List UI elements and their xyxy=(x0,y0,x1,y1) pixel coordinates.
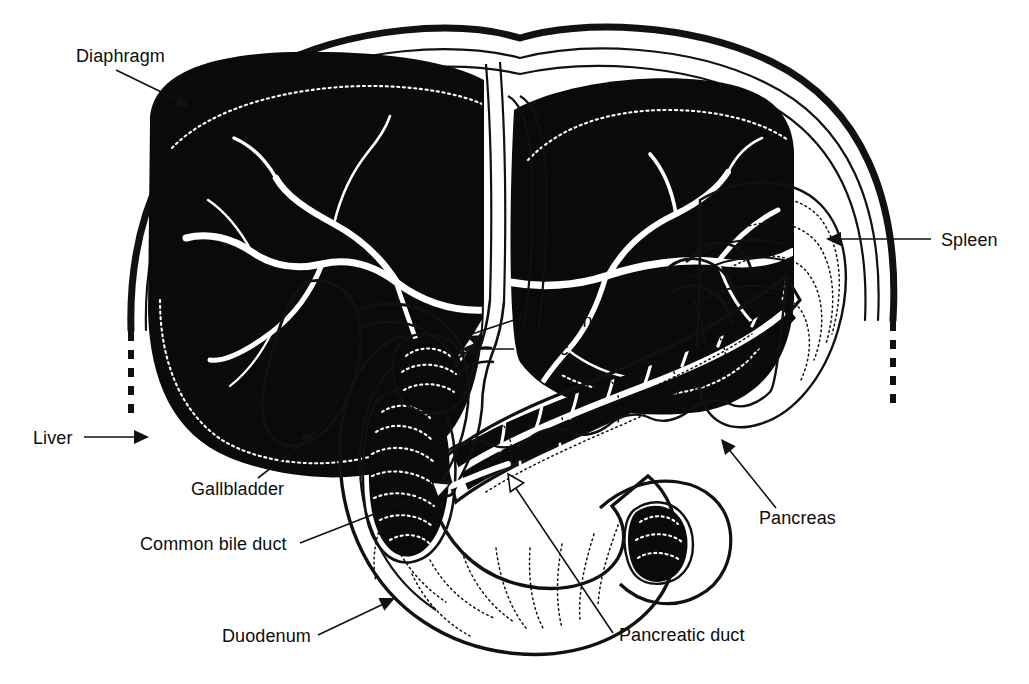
label-cystic-duct: Cystic duct xyxy=(519,339,608,359)
leader-pancreas xyxy=(723,442,776,508)
leader-duodenum xyxy=(318,600,392,635)
label-gallbladder: Gallbladder xyxy=(191,479,284,499)
anatomy-diagram: Diaphragm Spleen Common hepatic duct Cys… xyxy=(0,0,1029,684)
leader-pancreatic-duct xyxy=(509,478,613,633)
label-duodenum: Duodenum xyxy=(222,626,311,646)
arrowhead-liver xyxy=(134,430,149,444)
label-diaphragm: Diaphragm xyxy=(76,46,165,66)
anatomy-figure-page: Diaphragm Spleen Common hepatic duct Cys… xyxy=(0,0,1029,684)
label-liver: Liver xyxy=(33,428,73,448)
label-common-hepatic-duct: Common hepatic duct xyxy=(519,311,696,331)
arrowhead-pancreas xyxy=(716,435,736,455)
liver-right-lobe xyxy=(508,78,794,414)
label-spleen: Spleen xyxy=(941,230,998,250)
label-common-bile-duct: Common bile duct xyxy=(140,534,287,554)
label-pancreatic-duct: Pancreatic duct xyxy=(619,625,745,645)
label-pancreas: Pancreas xyxy=(759,508,836,528)
arrowhead-duodenum xyxy=(378,592,398,611)
arrowhead-spleen xyxy=(826,232,841,246)
